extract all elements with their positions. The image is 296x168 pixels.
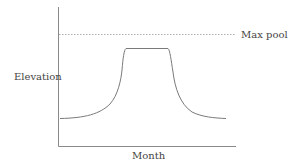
elevation-chart: Elevation Month Max pool [0, 0, 296, 168]
y-axis-label: Elevation [14, 71, 62, 82]
elevation-curve [60, 49, 226, 119]
x-axis-label: Month [132, 150, 166, 161]
max-pool-label: Max pool [241, 29, 288, 40]
